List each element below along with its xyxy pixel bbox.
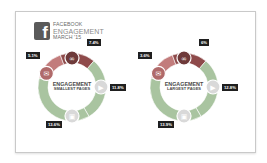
- value-label-link: 6%: [199, 39, 209, 46]
- value-label-video: 12.8%: [222, 84, 238, 91]
- comment-icon: ✉: [155, 70, 161, 78]
- value-label-photo: 13.6%: [46, 121, 62, 128]
- link-icon: ∞: [181, 55, 187, 63]
- comment-icon: ✉: [43, 70, 49, 78]
- value-label-photo: 13.9%: [158, 121, 174, 128]
- value-label-video: 11.8%: [110, 84, 126, 91]
- chart-subtitle: SMALLEST PAGES: [50, 87, 94, 92]
- chart-center-title-1: ENGAGEMENTLARGEST PAGES: [162, 81, 206, 92]
- play-icon: ▶: [98, 84, 104, 92]
- value-label-link: 7.4%: [87, 39, 101, 46]
- chart-subtitle: LARGEST PAGES: [162, 87, 206, 92]
- chart-center-title-0: ENGAGEMENTSMALLEST PAGES: [50, 81, 94, 92]
- value-label-comment: 5.1%: [26, 52, 40, 59]
- donut-charts: ✉∞▶▣✉∞▶▣: [0, 0, 267, 163]
- value-label-comment: 3.6%: [138, 52, 152, 59]
- link-icon: ∞: [69, 55, 75, 63]
- photo-icon: ▣: [69, 113, 76, 121]
- photo-icon: ▣: [181, 113, 188, 121]
- play-icon: ▶: [210, 84, 216, 92]
